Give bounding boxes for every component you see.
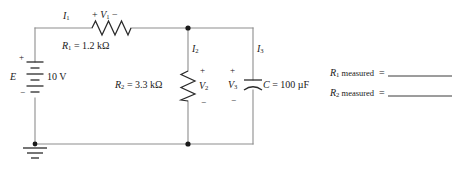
source-plus-sign: +: [19, 53, 24, 62]
source-label-e: E: [10, 72, 16, 82]
measurement-r2-label: R2 measured =: [330, 88, 385, 99]
current-label-i3: I3: [257, 44, 264, 55]
node-top-junction: [185, 25, 190, 30]
voltage-v2-plus: +: [200, 66, 205, 75]
voltage-v2-minus: −: [201, 98, 206, 107]
node-bottom-junction: [185, 141, 190, 146]
resistor-r2-label: R2 = 3.3 kΩ: [115, 80, 162, 91]
ground-icon: [23, 148, 47, 158]
resistor-r1-symbol: [92, 21, 131, 35]
source-value: 10 V: [47, 72, 67, 82]
current-label-i2: I2: [192, 44, 199, 55]
source-minus-sign: −: [20, 88, 25, 97]
node-ground-junction: [33, 142, 38, 147]
resistor-r2-symbol: [181, 71, 195, 101]
voltage-label-v1: + V1 −: [92, 10, 118, 21]
capacitor-c-symbol: [244, 80, 262, 90]
voltage-label-v3: V3: [228, 80, 237, 91]
voltage-v3-plus: +: [230, 66, 235, 75]
capacitor-c-label: C = 100 µF: [263, 80, 309, 90]
voltage-label-v2: V2: [199, 81, 208, 92]
voltage-v3-minus: −: [231, 96, 236, 105]
current-label-i1: I1: [63, 11, 70, 22]
resistor-r1-label: R1 = 1.2 kΩ: [62, 41, 109, 52]
measurement-r1-label: R1 measured =: [330, 68, 385, 79]
battery-symbol: [27, 62, 44, 92]
circuit-diagram: I1 + V1 − R1 = 1.2 kΩ E + − 10 V I2 R2 =…: [0, 0, 460, 170]
